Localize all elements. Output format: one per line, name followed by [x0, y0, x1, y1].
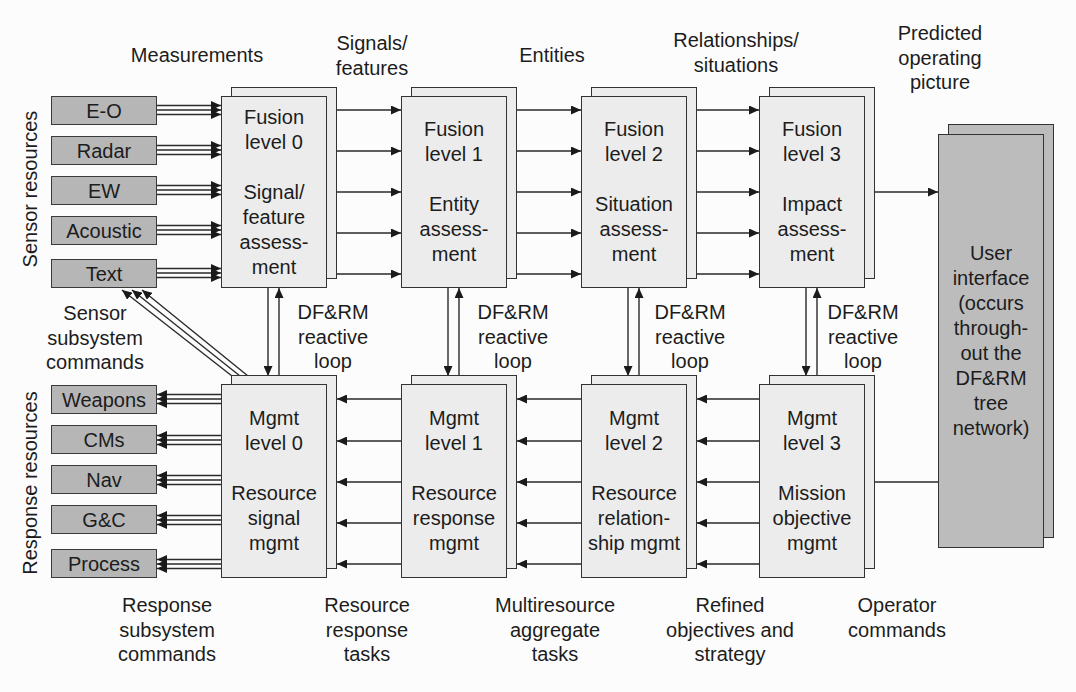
box-function: Resource signal mgmt: [231, 481, 317, 556]
fusion-level-2-box[interactable]: Fusion level 2 Situation assess- ment: [581, 96, 687, 288]
mgmt-level-0: Mgmt level 0 Resource signal mgmt: [221, 384, 327, 578]
header-predicted-operating-picture: Predicted operating picture: [898, 21, 983, 95]
df-rm-diagram: Measurements Signals/ features Entities …: [0, 0, 1076, 692]
bottom-label-multiresource-aggregate-tasks: Multiresource aggregate tasks: [495, 593, 615, 667]
fusion-level-0-box[interactable]: Fusion level 0 Signal/ feature assess- m…: [221, 96, 327, 288]
bottom-label-operator-commands: Operator commands: [848, 593, 946, 642]
box-function: Entity assess- ment: [420, 192, 489, 267]
reactive-loop-label-2: DF&RM reactive loop: [654, 300, 725, 374]
sensor-text[interactable]: Text: [51, 259, 157, 288]
fusion-level-3: Fusion level 3 Impact assess- ment: [759, 96, 865, 288]
mgmt-level-1-box[interactable]: Mgmt level 1 Resource response mgmt: [401, 384, 507, 578]
user-interface-box[interactable]: User interface (occurs through- out the …: [938, 134, 1044, 548]
fusion-level-0: Fusion level 0 Signal/ feature assess- m…: [221, 96, 327, 288]
mgmt-level-2: Mgmt level 2 Resource relation- ship mgm…: [581, 384, 687, 578]
sensor-label: Acoustic: [66, 221, 142, 241]
side-label-response-resources: Response resources: [18, 391, 42, 574]
response-label: Process: [68, 554, 140, 574]
response-label: CMs: [83, 430, 124, 450]
response-label: Nav: [86, 470, 122, 490]
box-title: Fusion level 1: [424, 117, 484, 167]
response-nav[interactable]: Nav: [51, 465, 157, 494]
reactive-loop-label-1: DF&RM reactive loop: [477, 300, 548, 374]
user-interface-label: User interface (occurs through- out the …: [953, 241, 1030, 441]
sensor-label: Radar: [77, 141, 131, 161]
response-cms[interactable]: CMs: [51, 425, 157, 454]
mgmt-level-0-box[interactable]: Mgmt level 0 Resource signal mgmt: [221, 384, 327, 578]
box-title: Fusion level 0: [244, 105, 304, 155]
response-label: G&C: [82, 510, 125, 530]
fusion-level-2: Fusion level 2 Situation assess- ment: [581, 96, 687, 288]
fusion-level-3-box[interactable]: Fusion level 3 Impact assess- ment: [759, 96, 865, 288]
mgmt-level-3-box[interactable]: Mgmt level 3 Mission objective mgmt: [759, 384, 865, 578]
response-process[interactable]: Process: [51, 549, 157, 578]
bottom-label-refined-objectives: Refined objectives and strategy: [666, 593, 794, 667]
box-title: Mgmt level 1: [425, 406, 483, 456]
box-title: Mgmt level 2: [605, 406, 663, 456]
sensor-subsystem-command-arrow: [132, 290, 240, 376]
reactive-loop-label-3: DF&RM reactive loop: [827, 300, 898, 374]
box-title: Mgmt level 0: [245, 406, 303, 456]
reactive-loop-label-0: DF&RM reactive loop: [297, 300, 368, 374]
header-entities: Entities: [519, 43, 585, 68]
bottom-label-resource-response-tasks: Resource response tasks: [324, 593, 410, 667]
fusion-level-1-box[interactable]: Fusion level 1 Entity assess- ment: [401, 96, 507, 288]
box-title: Mgmt level 3: [783, 406, 841, 456]
mgmt-level-3: Mgmt level 3 Mission objective mgmt: [759, 384, 865, 578]
sensor-ew[interactable]: EW: [51, 176, 157, 205]
sensor-radar[interactable]: Radar: [51, 136, 157, 165]
bottom-label-response-subsystem-commands: Response subsystem commands: [118, 593, 216, 667]
header-measurements: Measurements: [131, 43, 263, 68]
response-gc[interactable]: G&C: [51, 505, 157, 534]
response-label: Weapons: [62, 390, 146, 410]
box-function: Situation assess- ment: [595, 192, 673, 267]
side-label-sensor-resources: Sensor resources: [18, 111, 42, 268]
header-signals-features: Signals/ features: [336, 31, 408, 80]
box-function: Resource response mgmt: [411, 481, 497, 556]
box-function: Mission objective mgmt: [773, 481, 852, 556]
mgmt-level-1: Mgmt level 1 Resource response mgmt: [401, 384, 507, 578]
box-function: Signal/ feature assess- ment: [240, 180, 309, 280]
sensor-label: E-O: [86, 101, 122, 121]
sensor-acoustic[interactable]: Acoustic: [51, 216, 157, 245]
sensor-label: EW: [88, 181, 120, 201]
box-title: Fusion level 3: [782, 117, 842, 167]
box-function: Impact assess- ment: [778, 192, 847, 267]
mgmt-level-2-box[interactable]: Mgmt level 2 Resource relation- ship mgm…: [581, 384, 687, 578]
sensor-subsystem-command-arrow: [142, 290, 248, 376]
box-function: Resource relation- ship mgmt: [588, 481, 680, 556]
response-weapons[interactable]: Weapons: [51, 385, 157, 414]
sensor-subsystem-commands-label: Sensor subsystem commands: [46, 301, 144, 375]
user-interface: User interface (occurs through- out the …: [938, 134, 1044, 548]
sensor-eo[interactable]: E-O: [51, 96, 157, 125]
sensor-label: Text: [86, 264, 123, 284]
box-title: Fusion level 2: [604, 117, 664, 167]
fusion-level-1: Fusion level 1 Entity assess- ment: [401, 96, 507, 288]
header-relationships-situations: Relationships/ situations: [673, 28, 799, 77]
